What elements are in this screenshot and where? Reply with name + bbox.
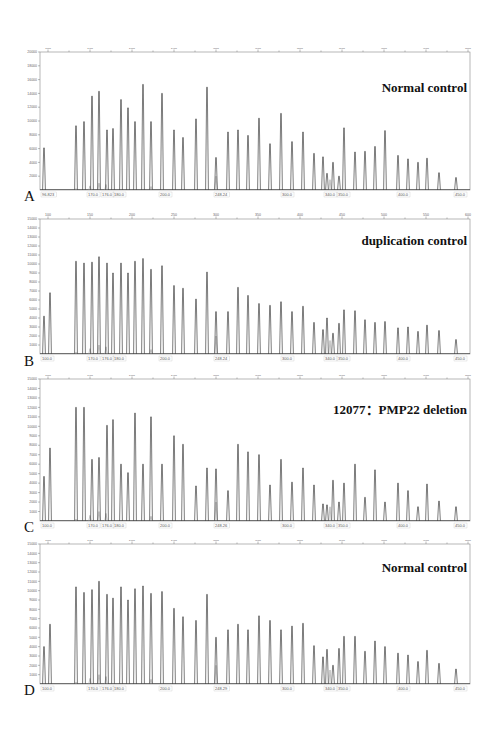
peak	[384, 502, 387, 521]
peak	[43, 477, 46, 521]
svg-text:13000: 13000	[27, 235, 37, 239]
svg-text:450: 450	[339, 540, 345, 542]
svg-text:150: 150	[87, 375, 93, 377]
peak	[384, 322, 387, 354]
peak	[49, 624, 52, 684]
peak	[354, 636, 357, 684]
svg-text:14000: 14000	[27, 226, 37, 230]
peak	[364, 497, 367, 521]
panel-d: 1001502002503003504004505005506001000200…	[0, 540, 497, 705]
peak	[127, 273, 130, 354]
svg-text:350: 350	[255, 540, 261, 542]
peak	[106, 130, 109, 190]
peak	[247, 452, 250, 521]
svg-text:4000: 4000	[29, 316, 37, 320]
svg-text:250: 250	[171, 375, 177, 377]
peak	[112, 598, 115, 684]
peak	[182, 288, 185, 354]
svg-text:250: 250	[171, 213, 177, 217]
peak	[120, 100, 123, 190]
peak	[364, 151, 367, 190]
svg-text:170.0: 170.0	[88, 356, 99, 361]
peak	[407, 655, 410, 684]
svg-text:340.0: 340.0	[325, 356, 336, 361]
svg-text:550: 550	[423, 540, 429, 542]
svg-text:200.0: 200.0	[160, 686, 171, 691]
svg-text:5000: 5000	[29, 307, 37, 311]
peak	[338, 649, 341, 684]
peak	[397, 653, 400, 684]
peak	[227, 312, 230, 354]
svg-text:300.0: 300.0	[282, 686, 293, 691]
peak	[120, 464, 123, 521]
peak	[247, 135, 250, 190]
peak	[142, 586, 145, 684]
svg-text:15000: 15000	[27, 377, 37, 381]
peak	[106, 425, 109, 521]
peak	[438, 331, 441, 354]
svg-text:13000: 13000	[27, 561, 37, 565]
svg-text:170.0: 170.0	[88, 686, 99, 691]
peak	[227, 630, 230, 684]
peak	[91, 262, 94, 354]
peak	[98, 91, 101, 190]
panel-title-b: duplication control	[361, 233, 467, 249]
svg-text:300.0: 300.0	[282, 192, 293, 197]
svg-text:450: 450	[339, 48, 345, 50]
svg-text:13000: 13000	[27, 396, 37, 400]
peak	[343, 483, 346, 521]
peak	[112, 129, 115, 190]
svg-text:350: 350	[255, 48, 261, 50]
svg-text:2000: 2000	[29, 500, 37, 504]
peak	[75, 587, 78, 684]
peak	[161, 592, 164, 684]
svg-text:9000: 9000	[29, 434, 37, 438]
svg-text:400: 400	[297, 375, 303, 377]
peak	[426, 484, 429, 521]
svg-text:4000: 4000	[29, 161, 37, 165]
svg-text:100.0: 100.0	[42, 523, 53, 528]
svg-text:250: 250	[171, 540, 177, 542]
svg-text:450.0: 450.0	[455, 686, 466, 691]
peak	[247, 296, 250, 355]
peak	[374, 641, 377, 684]
peak	[83, 593, 86, 684]
panel-letter-b: B	[24, 353, 34, 370]
peak	[417, 662, 420, 684]
peak	[150, 122, 153, 190]
peak	[455, 507, 458, 521]
peak	[326, 318, 329, 354]
svg-text:340.0: 340.0	[325, 686, 336, 691]
svg-text:350.0: 350.0	[338, 686, 349, 691]
peak	[291, 142, 294, 190]
peak	[326, 649, 329, 684]
peak	[258, 304, 261, 354]
svg-text:500: 500	[381, 213, 387, 217]
svg-text:150: 150	[87, 540, 93, 542]
peak	[332, 480, 335, 521]
peak	[354, 311, 357, 354]
peak	[322, 657, 325, 684]
svg-text:176.0: 176.0	[102, 523, 113, 528]
peak	[326, 173, 329, 190]
peak	[247, 630, 250, 684]
peak	[227, 132, 230, 190]
svg-text:180.0: 180.0	[114, 192, 125, 197]
svg-text:11000: 11000	[28, 580, 38, 584]
peak	[150, 269, 153, 354]
peak	[269, 621, 272, 684]
svg-text:450: 450	[339, 375, 345, 377]
svg-text:340.0: 340.0	[325, 523, 336, 528]
peak	[127, 108, 130, 190]
peak	[75, 261, 78, 354]
peak	[182, 444, 185, 521]
peak	[438, 663, 441, 684]
peak	[43, 316, 46, 354]
svg-text:100.0: 100.0	[42, 686, 53, 691]
svg-text:1000: 1000	[29, 510, 37, 514]
svg-text:550: 550	[423, 213, 429, 217]
peak	[127, 473, 130, 521]
svg-text:200: 200	[129, 213, 135, 217]
svg-text:400: 400	[297, 540, 303, 542]
peak	[120, 587, 123, 684]
